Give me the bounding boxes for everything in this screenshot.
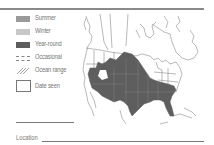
location-entry-line[interactable] [42, 141, 204, 142]
legend-label: Year-round [35, 40, 62, 47]
location-label: Location [16, 134, 38, 141]
legend-label: Ocean range [35, 66, 66, 73]
summer-swatch [16, 16, 30, 22]
date-seen-checkbox[interactable] [16, 80, 31, 92]
legend-label: Summer [35, 14, 56, 21]
winter-swatch [16, 29, 30, 35]
year-round-swatch [16, 42, 30, 48]
legend-label: Date seen [35, 82, 60, 89]
date-entry-line[interactable] [16, 122, 74, 123]
range-map [80, 12, 214, 130]
legend-label: Winter [35, 27, 51, 34]
legend-label: Occasional [35, 53, 62, 60]
top-rule [0, 8, 204, 10]
occasional-dashed-icon [16, 56, 30, 61]
ocean-range-hatch-icon [16, 67, 30, 75]
